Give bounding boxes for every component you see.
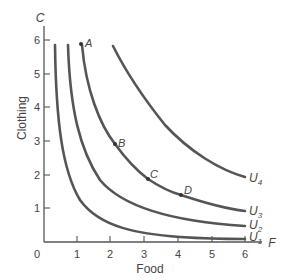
- y-tick-label: 4: [34, 101, 40, 113]
- y-axis-letter: C: [36, 11, 45, 25]
- x-tick-label: 5: [209, 248, 215, 260]
- x-tick-label: 2: [107, 248, 113, 260]
- point-a: [79, 42, 83, 46]
- point-b: [113, 142, 117, 146]
- x-axis-letter: F: [268, 236, 276, 250]
- x-tick-label: 6: [242, 248, 248, 260]
- y-ticks: [44, 40, 50, 208]
- point-label-c: C: [150, 168, 158, 180]
- y-axis-title: Clothing: [15, 96, 29, 140]
- y-tick-label: 1: [34, 202, 40, 214]
- x-tick-label: 4: [175, 248, 181, 260]
- y-tick-label: 5: [34, 68, 40, 80]
- curve-u2: [68, 45, 245, 226]
- x-axis-title: Food: [136, 262, 163, 276]
- origin-label: 0: [34, 248, 40, 260]
- x-tick-label: 3: [141, 248, 147, 260]
- point-label-b: B: [118, 137, 125, 149]
- curve-u4: [113, 46, 245, 177]
- y-tick-label: 2: [34, 169, 40, 181]
- point-label-a: A: [84, 37, 92, 49]
- point-d: [179, 193, 183, 197]
- point-label-d: D: [184, 184, 192, 196]
- indifference-curve-chart: 1 2 3 4 5 6 0 1 2 3 4 5 6 C F Food Cloth…: [0, 0, 295, 280]
- y-tick-label: 6: [34, 34, 40, 46]
- curve-label-u4: U4: [249, 171, 263, 187]
- y-tick-label: 3: [34, 135, 40, 147]
- x-tick-label: 1: [74, 248, 80, 260]
